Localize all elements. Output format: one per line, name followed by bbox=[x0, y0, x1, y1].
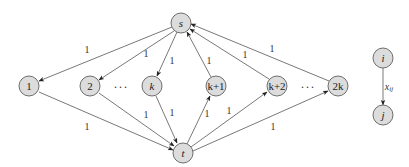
ellipsis-left: ··· bbox=[114, 80, 129, 94]
edge-label-s-1: 1 bbox=[85, 44, 90, 55]
legend-node-j: j bbox=[373, 105, 393, 125]
edge-label-i-j: xij bbox=[384, 81, 393, 94]
edge-label-k-t: 1 bbox=[170, 107, 175, 118]
edge-label-1-t: 1 bbox=[85, 121, 90, 132]
edge-1-t bbox=[39, 92, 173, 150]
network-diagram: 1 1 1 1 1 1 1 1 1 1 1 1 xij ··· ··· s t … bbox=[0, 0, 409, 167]
edge-label-s-2: 1 bbox=[144, 48, 149, 59]
svg-text:2: 2 bbox=[87, 80, 93, 92]
edge-s-1 bbox=[39, 27, 172, 81]
edge-t-2k bbox=[193, 91, 328, 151]
node-k-plus-2: k+2 bbox=[267, 76, 287, 96]
node-2: 2 bbox=[80, 76, 100, 96]
edge-k2-s bbox=[190, 29, 269, 79]
edge-label-2-t: 1 bbox=[144, 109, 149, 120]
edge-t-k1 bbox=[187, 96, 210, 144]
ellipsis-right: ··· bbox=[301, 80, 316, 94]
node-k-plus-1: k+1 bbox=[206, 76, 226, 96]
legend-node-i: i bbox=[373, 48, 393, 68]
edge-label-k2-s: 1 bbox=[243, 49, 248, 60]
edge-label-s-k: 1 bbox=[170, 55, 175, 66]
svg-text:1: 1 bbox=[26, 80, 32, 92]
node-2k: 2k bbox=[328, 76, 348, 96]
edge-2k-s bbox=[191, 24, 329, 81]
svg-text:i: i bbox=[381, 52, 384, 64]
edge-label-t-k1: 1 bbox=[205, 108, 210, 119]
svg-text:s: s bbox=[179, 17, 183, 29]
node-t: t bbox=[173, 143, 193, 163]
edge-s-2 bbox=[99, 31, 174, 80]
node-k: k bbox=[142, 76, 162, 96]
node-s: s bbox=[171, 13, 191, 33]
edge-label-t-k2: 1 bbox=[227, 105, 232, 116]
svg-text:2k: 2k bbox=[333, 80, 345, 92]
svg-text:k+2: k+2 bbox=[268, 80, 285, 92]
svg-text:k+1: k+1 bbox=[207, 80, 224, 92]
edge-t-k2 bbox=[191, 92, 267, 147]
node-1: 1 bbox=[19, 76, 39, 96]
edge-label-k1-s: 1 bbox=[207, 55, 212, 66]
edge-label-t-2k: 1 bbox=[271, 121, 276, 132]
edge-label-2k-s: 1 bbox=[270, 43, 275, 54]
edge-2-t bbox=[99, 93, 174, 146]
